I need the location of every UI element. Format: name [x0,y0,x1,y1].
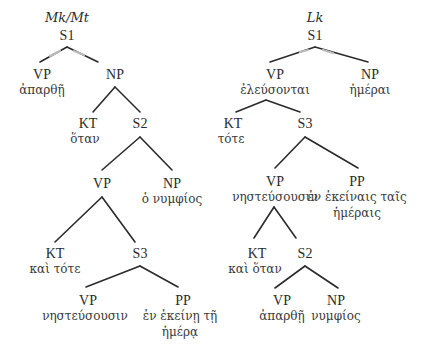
node-lk-vp2: VP [266,175,284,189]
word-lk-pp-line1: ἐν ἐκείναις ταῖς [307,191,406,203]
node-lk-vp3: VP [273,294,291,308]
word-mk-kt1: ὅταν [70,133,99,145]
edge-mk-s3-pp [140,266,178,287]
node-mk-np1: NP [106,68,124,82]
word-mk-pp-line2: ἡμέρᾳ [162,326,198,338]
word-mk-vp3: νηστεύσουσιν [42,310,128,322]
word-lk-vp3: ἀπαρθῇ [259,310,305,322]
edge-mk-np-s2 [115,87,140,112]
edge-mk-s3-vp [86,266,140,287]
edge-lk-vp-s3 [266,100,300,112]
edge-lk-vp-kt [236,100,266,112]
edge-lk-s3-pp [305,137,358,168]
node-lk-pp: PP [349,175,365,189]
node-mk-s2: S2 [133,117,148,131]
node-lk-s2: S2 [298,247,313,261]
edge-lk-s3-vp [275,137,305,168]
edge-lk-s2-np [305,266,338,288]
word-lk-vp2: νηστεύσουσιν [232,191,318,203]
edge-mk-s2-vp [102,137,140,170]
word-lk-kt2: καὶ ὅταν [228,263,281,275]
node-mk-np2: NP [163,177,181,191]
edge-mk-np-kt [93,87,115,112]
tree-edges [0,0,439,352]
node-mk-vp2: VP [93,177,111,191]
node-mk-s3: S3 [133,247,148,261]
node-lk-s1: S1 [308,29,323,43]
node-lk-vp1: VP [266,68,284,82]
word-lk-pp-line2: ἡμέραις [333,207,381,219]
edge-mk-s2-np [140,137,172,170]
node-mk-vp1: VP [33,68,51,82]
node-lk-kt1: KT [224,117,243,131]
node-lk-s3: S3 [298,117,313,131]
tree-title-lk: Lk [307,11,324,24]
node-mk-pp: PP [175,294,191,308]
edge-lk-vp-s2 [274,207,296,238]
node-mk-s1: S1 [60,29,75,43]
word-lk-np1: ἡμέραι [349,84,390,96]
edge-lk-vp-kt2 [254,207,274,238]
node-mk-vp3: VP [79,294,97,308]
edge-mk-vp-kt [55,197,102,242]
node-mk-kt1: KT [79,117,98,131]
node-lk-np2: NP [327,294,345,308]
edge-mk-vp-s3 [102,197,135,242]
node-lk-kt2: KT [248,247,267,261]
word-lk-np2: νυμφίος [311,310,360,322]
word-lk-vp1: ἐλεύσονται [240,84,310,96]
node-lk-np1: NP [361,68,379,82]
word-mk-kt2: καὶ τότε [30,263,81,275]
word-mk-pp-line1: ἐν ἐκείνῃ τῇ [143,310,218,322]
word-lk-kt1: τότε [218,133,245,145]
word-mk-vp1: ἀπαρθῇ [19,84,65,96]
tree-title-mk-mt: Mk/Mt [45,11,89,24]
word-mk-np2: ὁ νυμφίος [142,193,202,205]
node-mk-kt2: KT [46,247,65,261]
